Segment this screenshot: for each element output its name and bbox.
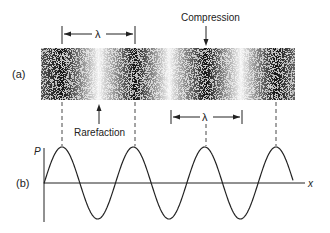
sound-wave-diagram: (a) λ Compression Rarefaction λ bbox=[0, 0, 330, 233]
wavelength-symbol-bottom: λ bbox=[202, 111, 208, 123]
wavelength-symbol-top: λ bbox=[95, 28, 101, 40]
rarefaction-arrow bbox=[97, 104, 102, 124]
compression-rarefaction-band bbox=[41, 48, 295, 100]
panel-b-label: (b) bbox=[16, 177, 29, 189]
compression-arrow bbox=[204, 26, 209, 46]
rarefaction-label: Rarefaction bbox=[74, 127, 125, 138]
x-axis-label: x bbox=[307, 178, 314, 189]
compression-label: Compression bbox=[181, 12, 240, 23]
dashed-guides bbox=[62, 102, 276, 146]
panel-a-label: (a) bbox=[12, 68, 25, 80]
y-axis-label: P bbox=[34, 146, 41, 157]
